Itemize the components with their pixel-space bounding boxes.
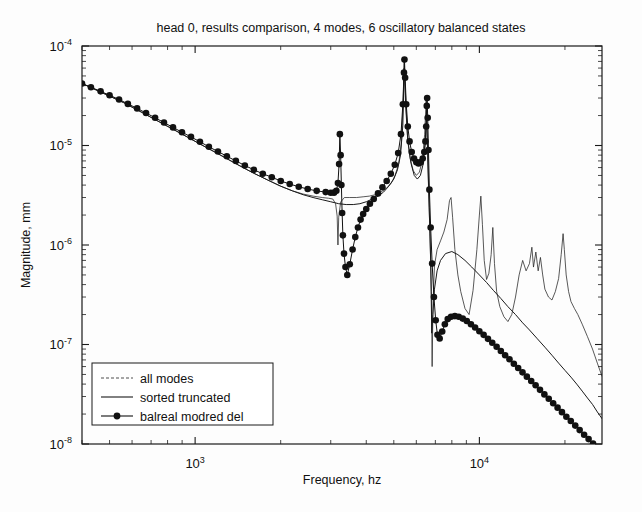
tick-label: 10-7: [50, 336, 72, 353]
tick-label: 103: [185, 455, 204, 472]
plot-title: head 0, results comparison, 4 modes, 6 o…: [157, 21, 526, 35]
magnitude-frequency-plot: head 0, results comparison, 4 modes, 6 o…: [0, 0, 642, 512]
y-tick-labels: 10-410-510-610-710-8: [50, 37, 72, 452]
x-axis-label: Frequency, hz: [303, 473, 381, 487]
legend-label-balreal-modred-del: balreal modred del: [140, 410, 244, 424]
tick-label: 10-5: [50, 137, 72, 154]
legend[interactable]: all modes sorted truncated balreal modre…: [92, 363, 273, 425]
legend-swatch-marker-dot: [114, 413, 121, 420]
legend-label-sorted-truncated: sorted truncated: [140, 391, 230, 405]
tick-label: 104: [470, 455, 489, 472]
tick-label: 10-6: [50, 236, 72, 253]
tick-label: 10-8: [50, 435, 72, 452]
y-axis-label: Magnitude, mm: [19, 202, 33, 288]
legend-label-all-modes: all modes: [140, 372, 194, 386]
x-tick-labels: 103104: [185, 455, 489, 472]
tick-label: 10-4: [50, 37, 72, 54]
figure-container: head 0, results comparison, 4 modes, 6 o…: [0, 0, 642, 512]
